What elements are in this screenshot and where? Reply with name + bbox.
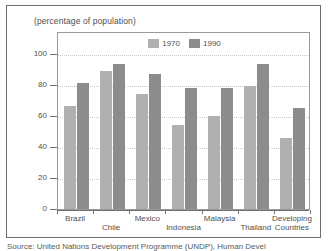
y-tick-label-40: 40 (38, 142, 47, 151)
bar-malaysia-1990 (221, 88, 233, 209)
plot-area: 19701990 (57, 32, 310, 210)
category-labels: BrazilChileMexicoIndonesiaMalaysiaThaila… (57, 212, 310, 240)
category-label-developing-countries: Developing Countries (266, 214, 318, 232)
bar-indonesia-1990 (185, 88, 197, 209)
bar-group-indonesia (172, 32, 198, 209)
y-tick-label-20: 20 (38, 173, 47, 182)
bar-thailand-1990 (257, 64, 269, 209)
bar-thailand-1970 (244, 86, 256, 209)
category-label-indonesia: Indonesia (166, 223, 201, 232)
y-tick-label-80: 80 (38, 80, 47, 89)
bar-chile-1990 (113, 64, 125, 209)
y-tick-label-0: 0 (43, 204, 47, 213)
bar-group-brazil (63, 32, 89, 209)
source-note: Source: United Nations Development Progr… (7, 242, 329, 251)
y-axis: 020406080100 (0, 0, 57, 250)
bars-layer (58, 33, 309, 209)
bar-group-thailand (244, 32, 270, 209)
y-tick-label-60: 60 (38, 111, 47, 120)
y-tick-mark-20 (50, 178, 57, 179)
category-label-malaysia: Malaysia (204, 214, 236, 223)
bar-developing-countries-1990 (293, 108, 305, 209)
bar-group-developing-countries (280, 32, 306, 209)
bar-group-chile (99, 32, 125, 209)
bar-mexico-1990 (149, 74, 161, 209)
bar-chile-1970 (100, 71, 112, 209)
bar-indonesia-1970 (172, 125, 184, 209)
y-tick-mark-40 (50, 147, 57, 148)
category-label-brazil: Brazil (65, 214, 85, 223)
bar-group-mexico (135, 32, 161, 209)
bar-mexico-1970 (136, 94, 148, 209)
y-tick-mark-100 (50, 54, 57, 55)
category-label-mexico: Mexico (135, 214, 160, 223)
bar-brazil-1990 (77, 83, 89, 209)
bar-developing-countries-1970 (280, 138, 292, 210)
y-tick-mark-80 (50, 85, 57, 86)
y-tick-label-100: 100 (34, 49, 47, 58)
category-label-chile: Chile (102, 223, 120, 232)
y-tick-mark-0 (50, 209, 57, 210)
bar-group-malaysia (208, 32, 234, 209)
bar-malaysia-1970 (208, 116, 220, 209)
bar-brazil-1970 (64, 106, 76, 209)
y-tick-mark-60 (50, 116, 57, 117)
